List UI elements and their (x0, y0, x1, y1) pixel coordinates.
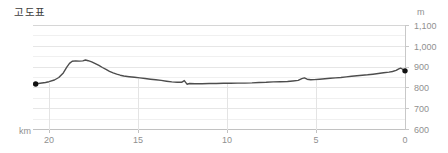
y-tick-label: 600 (414, 125, 429, 135)
x-tick-label: 20 (44, 135, 54, 145)
x-tick-label: 10 (222, 135, 232, 145)
elevation-line (36, 60, 405, 84)
x-tick-label: 15 (133, 135, 143, 145)
elevation-chart: 고도표 m km 1,1001,00090080070060020151050 (0, 0, 448, 153)
y-tick-label: 1,000 (414, 42, 437, 52)
start-point-marker (33, 81, 38, 86)
y-tick-label: 900 (414, 62, 429, 72)
x-tick-label: 0 (402, 135, 407, 145)
end-point-marker (402, 68, 407, 73)
x-tick-label: 5 (313, 135, 318, 145)
chart-canvas: 1,1001,00090080070060020151050 (0, 0, 448, 153)
y-tick-label: 800 (414, 83, 429, 93)
y-tick-label: 1,100 (414, 21, 437, 31)
y-tick-label: 700 (414, 104, 429, 114)
